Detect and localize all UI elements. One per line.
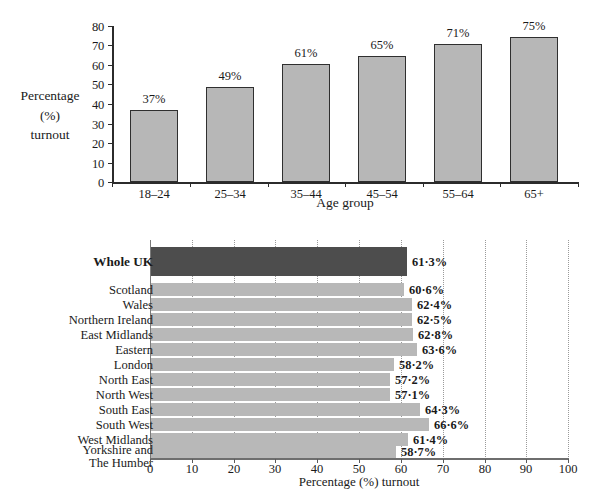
y-tick-mark-60 (108, 65, 112, 66)
bar-value-northern-ireland: 62·5% (417, 314, 452, 326)
y-axis-title: Percentage (%) turnout (4, 86, 96, 145)
x-axis-title-region: Percentage (%) turnout (150, 474, 568, 490)
region-label-north-east: North East (99, 374, 153, 387)
bar-whole-uk[interactable] (151, 247, 407, 276)
bar-value-65-plus: 75% (510, 20, 558, 33)
y-tick-label-50: 50 (78, 79, 104, 92)
x-tick-mark-5 (500, 183, 501, 187)
chart-turnout-by-age: Percentage (%) turnout 80 70 60 50 40 30… (0, 0, 596, 215)
y-tick-mark-30 (108, 124, 112, 125)
bar-25-34[interactable] (206, 87, 254, 182)
bar-north-east[interactable] (151, 373, 390, 386)
region-label-south-west: South West (96, 419, 153, 432)
y-tick-label-20: 20 (78, 138, 104, 151)
bar-yorkshire-and-the-humber[interactable] (151, 445, 396, 458)
bar-55-64[interactable] (434, 44, 482, 182)
region-label-london: London (114, 359, 153, 372)
x-tick-mark-2 (268, 183, 269, 187)
y-tick-label-10: 10 (78, 158, 104, 171)
bar-value-scotland: 60·6% (409, 284, 444, 296)
bar-value-north-west: 57·1% (395, 389, 430, 401)
region-label-whole-uk: Whole UK (93, 255, 153, 268)
y-tick-mark-40 (108, 104, 112, 105)
x-tick-mark-6 (578, 183, 579, 187)
bar-south-west[interactable] (151, 418, 429, 431)
bar-18-24[interactable] (130, 110, 178, 182)
bar-value-south-west: 66·6% (434, 419, 469, 431)
bar-value-25-34: 49% (206, 70, 254, 83)
region-label-south-east: South East (99, 404, 153, 417)
y-tick-mark-70 (108, 45, 112, 46)
y-tick-mark-10 (108, 163, 112, 164)
region-label-yorkshire-and-the-humber-line-1: Yorkshire and (83, 444, 153, 457)
region-label-north-west: North West (96, 389, 153, 402)
bar-value-eastern: 63·6% (422, 344, 457, 356)
gridline-80 (485, 240, 486, 459)
y-tick-label-40: 40 (78, 99, 104, 112)
region-label-wales: Wales (123, 299, 153, 312)
bar-value-south-east: 64·3% (425, 404, 460, 416)
bar-value-yorkshire-and-the-humber: 58·7% (401, 446, 436, 458)
y-tick-label-30: 30 (78, 119, 104, 132)
bar-north-west[interactable] (151, 388, 390, 401)
gridline-90 (526, 240, 527, 459)
bar-value-18-24: 37% (130, 93, 178, 106)
x-tick-mark-3 (345, 183, 346, 187)
bar-value-55-64: 71% (434, 27, 482, 40)
region-label-eastern: Eastern (115, 344, 153, 357)
x-tick-mark-4 (423, 183, 424, 187)
y-tick-mark-50 (108, 84, 112, 85)
bar-value-north-east: 57·2% (395, 374, 430, 386)
y-axis-line (112, 26, 114, 183)
y-tick-label-80: 80 (78, 21, 104, 34)
y-tick-label-0: 0 (78, 177, 104, 190)
bar-value-35-44: 61% (282, 47, 330, 60)
bar-eastern[interactable] (151, 343, 417, 356)
bar-value-east-midlands: 62·8% (418, 329, 453, 341)
bar-value-45-54: 65% (358, 39, 406, 52)
y-tick-mark-20 (108, 143, 112, 144)
y-tick-label-60: 60 (78, 60, 104, 73)
bar-london[interactable] (151, 358, 394, 371)
x-axis-title: Age group (110, 195, 580, 211)
bar-east-midlands[interactable] (151, 328, 413, 341)
bar-scotland[interactable] (151, 283, 404, 296)
region-label-northern-ireland: Northern Ireland (69, 314, 153, 327)
bar-value-wales: 62·4% (417, 299, 452, 311)
x-tick-mark-0 (112, 183, 113, 187)
bar-65-plus[interactable] (510, 37, 558, 182)
region-label-scotland: Scotland (109, 284, 153, 297)
bar-northern-ireland[interactable] (151, 313, 412, 326)
y-tick-label-70: 70 (78, 40, 104, 53)
bar-value-whole-uk: 61·3% (412, 256, 447, 268)
bar-value-london: 58·2% (399, 359, 434, 371)
x-tick-mark-1 (190, 183, 191, 187)
y-tick-mark-80 (108, 26, 112, 27)
figure-container: Percentage (%) turnout 80 70 60 50 40 30… (0, 0, 596, 497)
bar-south-east[interactable] (151, 403, 420, 416)
region-label-east-midlands: East Midlands (81, 329, 153, 342)
bar-45-54[interactable] (358, 56, 406, 182)
bar-wales[interactable] (151, 298, 412, 311)
bar-35-44[interactable] (282, 64, 330, 182)
gridline-100 (568, 240, 569, 459)
